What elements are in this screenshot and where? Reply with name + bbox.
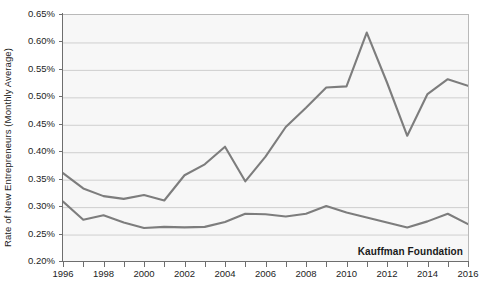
x-axis-tick-mark bbox=[245, 262, 246, 267]
x-axis-tick-mark bbox=[306, 262, 307, 267]
x-axis-tick-mark bbox=[185, 262, 186, 267]
x-axis-tick-mark bbox=[83, 262, 84, 267]
x-axis-tick-mark bbox=[387, 262, 388, 267]
kauffman-foundation-watermark: Kauffman Foundation bbox=[358, 246, 463, 257]
x-axis-tick-label: 2012 bbox=[367, 268, 407, 279]
x-axis-tick-mark bbox=[205, 262, 206, 267]
x-axis-tick-label: 2006 bbox=[246, 268, 286, 279]
x-axis-tick-mark bbox=[326, 262, 327, 267]
x-axis-tick-mark bbox=[144, 262, 145, 267]
x-axis-tick-mark bbox=[468, 262, 469, 267]
x-axis-tick-mark bbox=[367, 262, 368, 267]
x-axis-tick-label: 2000 bbox=[124, 268, 164, 279]
x-axis-tick-mark bbox=[63, 262, 64, 267]
x-axis-tick-label: 2014 bbox=[408, 268, 448, 279]
x-axis-tick-mark bbox=[407, 262, 408, 267]
x-axis-tick-mark bbox=[164, 262, 165, 267]
x-axis-tick-label: 1996 bbox=[43, 268, 83, 279]
x-axis-tick-label: 2010 bbox=[327, 268, 367, 279]
x-axis-tick-label: 1998 bbox=[84, 268, 124, 279]
x-axis-tick-mark bbox=[124, 262, 125, 267]
x-axis-tick-mark bbox=[347, 262, 348, 267]
x-axis-tick-label: 2002 bbox=[165, 268, 205, 279]
x-axis-tick-mark bbox=[104, 262, 105, 267]
x-axis-tick-label: 2016 bbox=[448, 268, 488, 279]
x-axis-tick-mark bbox=[448, 262, 449, 267]
x-axis-tick-label: 2008 bbox=[286, 268, 326, 279]
line-chart: Rate of New Entrepreneurs (Monthly Avera… bbox=[0, 0, 494, 295]
x-axis-tick-label: 2004 bbox=[205, 268, 245, 279]
x-axis-tick-mark bbox=[225, 262, 226, 267]
x-axis-tick-mark bbox=[266, 262, 267, 267]
x-axis-tick-mark bbox=[428, 262, 429, 267]
x-axis-tick-mark bbox=[286, 262, 287, 267]
